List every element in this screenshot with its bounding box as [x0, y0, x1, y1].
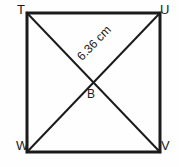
intersection-point-label-b: B — [87, 88, 95, 100]
vertex-label-t: T — [17, 3, 25, 16]
vertex-label-v: V — [161, 139, 170, 152]
geometry-figure: T U V W B 6.36 cm — [0, 0, 179, 167]
vertex-label-w: W — [16, 139, 28, 152]
vertex-label-u: U — [160, 3, 169, 16]
